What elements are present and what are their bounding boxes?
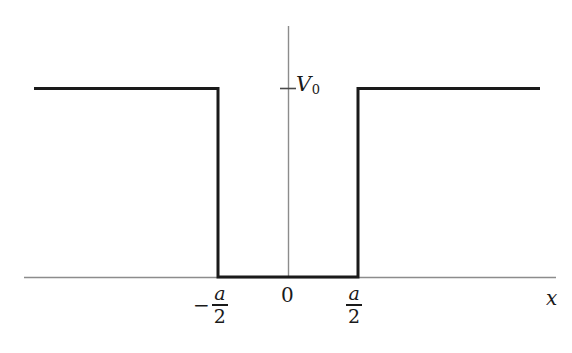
x-tick-label-positive-half-a: a 2: [346, 284, 362, 326]
potential-depth-label: V0: [296, 74, 320, 96]
fraction-denominator: 2: [346, 306, 362, 326]
fraction-numerator: a: [212, 284, 227, 304]
potential-depth-subscript: 0: [312, 82, 320, 97]
fraction-numerator: a: [346, 284, 361, 304]
potential-well-figure: V0 x 0 − a 2 a 2: [0, 0, 572, 353]
potential-curve: [34, 89, 540, 278]
fraction: a 2: [346, 284, 362, 326]
x-axis-label: x: [546, 288, 557, 308]
fraction: a 2: [212, 284, 228, 326]
origin-tick-label: 0: [281, 285, 294, 305]
x-tick-label-negative-half-a: − a 2: [193, 284, 228, 326]
potential-depth-symbol: V: [296, 72, 311, 96]
minus-sign: −: [193, 293, 210, 317]
fraction-denominator: 2: [212, 306, 228, 326]
